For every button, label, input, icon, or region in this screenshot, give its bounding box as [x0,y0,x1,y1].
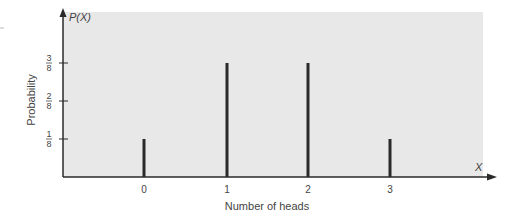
probability-distribution-chart: P(X) X 182838 0123 Probability Number of… [0,0,508,221]
bar-0 [143,139,146,177]
y-tick-label: 18 [46,129,52,149]
x-tick-label: 1 [224,184,230,195]
x-tick-label: 0 [141,184,147,195]
x-tick-label: 2 [305,184,311,195]
y-axis-symbol: P(X) [69,11,91,23]
svg-text:3: 3 [46,53,51,63]
plot-area [63,12,483,177]
bar-2 [307,63,310,177]
y-axis-title: Probability [25,74,37,126]
svg-text:8: 8 [46,101,51,111]
x-axis-symbol: X [474,161,483,173]
bar-3 [389,139,392,177]
x-axis-title: Number of heads [225,200,310,212]
svg-text:1: 1 [46,129,51,139]
x-tick-label: 3 [387,184,393,195]
y-tick-label: 28 [46,91,52,111]
svg-text:2: 2 [46,91,51,101]
svg-text:8: 8 [46,63,51,73]
x-axis-arrow-icon [487,174,497,181]
x-tick-labels: 0123 [141,184,393,195]
svg-text:8: 8 [46,139,51,149]
bar-1 [226,63,229,177]
y-tick-label: 38 [46,53,52,73]
